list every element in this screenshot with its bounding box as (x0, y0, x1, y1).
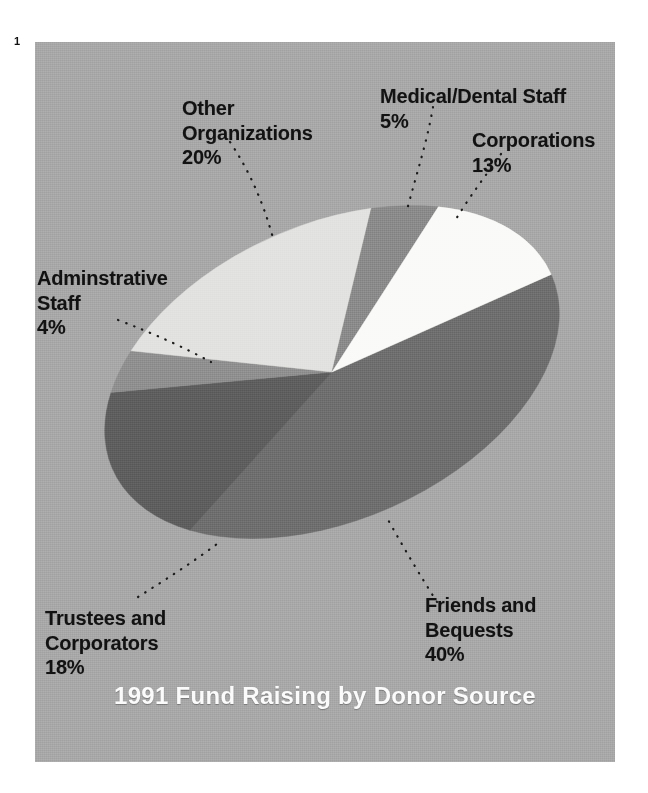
callout-other-organizations-pct: 20% (182, 145, 313, 169)
page-root: 1 (0, 0, 648, 793)
callout-friends-pct: 40% (425, 642, 536, 666)
callout-corporations-pct: 13% (472, 153, 595, 177)
callout-corporations-name: Corporations (472, 129, 595, 151)
callout-other-organizations-name: Other Organizations (182, 97, 313, 143)
callout-adminstrative-staff: Adminstrative Staff 4% (37, 242, 168, 364)
callout-trustees-pct: 18% (45, 655, 166, 679)
callout-corporations: Corporations 13% (472, 104, 595, 202)
callout-adminstrative-name: Adminstrative Staff (37, 267, 168, 313)
callout-friends-and-bequests: Friends and Bequests 40% (425, 569, 536, 691)
chart-title: 1991 Fund Raising by Donor Source (35, 682, 615, 710)
pie-ellipse-group (53, 140, 612, 605)
callout-adminstrative-pct: 4% (37, 315, 168, 339)
callout-friends-name: Friends and Bequests (425, 594, 536, 640)
callout-other-organizations: Other Organizations 20% (182, 72, 313, 194)
chart-panel: Other Organizations 20% Medical/Dental S… (35, 42, 615, 762)
callout-trustees-name: Trustees and Corporators (45, 607, 166, 653)
page-number-marker: 1 (14, 36, 20, 47)
